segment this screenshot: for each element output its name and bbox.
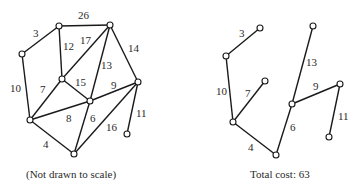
edge-weight-label: 3 — [239, 27, 245, 39]
tree-node — [257, 25, 263, 31]
edge-weight-label: 9 — [111, 79, 117, 91]
tree-edge — [233, 122, 276, 155]
edge-weight-label: 7 — [40, 83, 46, 95]
graph-edge — [59, 26, 62, 79]
edge-weight-label: 10 — [216, 85, 228, 97]
edge-weight-label: 9 — [313, 80, 319, 92]
edge-weight-label: 3 — [33, 27, 39, 39]
tree-node — [223, 53, 229, 59]
edge-weight-label: 4 — [43, 138, 49, 150]
graph-node — [87, 98, 93, 104]
edge-weight-label: 4 — [248, 141, 254, 153]
edge-weight-label: 17 — [80, 34, 92, 46]
tree-edges — [226, 26, 340, 155]
tree-node — [262, 78, 268, 84]
graph-node — [19, 51, 25, 57]
edge-weight-label: 6 — [90, 112, 96, 124]
edge-weight-label: 11 — [338, 110, 349, 122]
graph-edge-weights: 326121713141015798616114 — [10, 9, 147, 150]
edge-weight-label: 12 — [63, 40, 74, 52]
tree-node — [273, 152, 279, 158]
edge-weight-label: 7 — [245, 87, 251, 99]
graph-node — [135, 79, 141, 85]
graph-node — [56, 23, 62, 29]
tree-node — [337, 81, 343, 87]
tree-node — [310, 23, 316, 29]
graph-edge — [30, 79, 62, 120]
graph-edge — [59, 25, 110, 26]
graph-edge — [74, 82, 138, 154]
graph-node — [71, 151, 77, 157]
edge-weight-label: 10 — [10, 82, 22, 94]
edge-weight-label: 8 — [66, 112, 72, 124]
edge-weight-label: 15 — [75, 76, 87, 88]
graph-edge — [30, 120, 74, 154]
edge-weight-label: 13 — [306, 56, 318, 68]
edge-weight-label: 16 — [106, 121, 118, 133]
mst-diagram: 326121713141015798616114 (Not drawn to s… — [0, 0, 361, 189]
graph-node — [107, 22, 113, 28]
total-cost-caption: Total cost: 63 — [250, 168, 310, 180]
edge-weight-label: 11 — [136, 107, 147, 119]
edge-weight-label: 6 — [290, 121, 296, 133]
tree-node — [289, 101, 295, 107]
graph-caption: (Not drawn to scale) — [26, 168, 116, 181]
edge-weight-label: 14 — [128, 42, 140, 54]
graph-node — [27, 117, 33, 123]
graph-node — [124, 131, 130, 137]
graph-edge — [30, 101, 90, 120]
graph-edge — [22, 26, 59, 54]
graph-edge — [22, 54, 30, 120]
edge-weight-label: 13 — [101, 59, 113, 71]
edge-weight-label: 26 — [78, 9, 90, 21]
tree-node — [230, 119, 236, 125]
tree-node — [326, 134, 332, 140]
graph-node — [59, 76, 65, 82]
tree-edge — [226, 56, 233, 122]
